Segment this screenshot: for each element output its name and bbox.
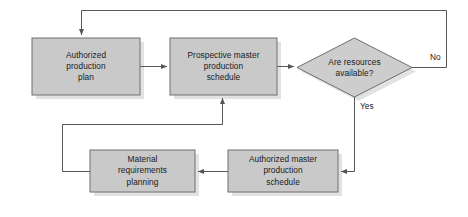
node-authorized-production-plan	[32, 38, 140, 95]
edge-decision-yes-to-authorized-master	[341, 97, 355, 172]
node-authorized-master-production-schedule	[228, 150, 338, 192]
node-are-resources-available	[297, 38, 412, 97]
flowchart-canvas	[0, 0, 468, 217]
flowchart-diagram: Authorized production plan Prospective m…	[0, 0, 468, 217]
node-material-requirements-planning	[90, 150, 195, 192]
node-prospective-master-production-schedule	[170, 38, 277, 95]
